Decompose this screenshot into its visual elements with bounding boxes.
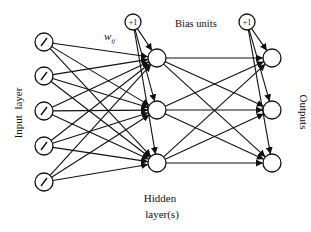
bias-node-label: +1 [243, 18, 252, 27]
input-layer-label: Input layer [12, 87, 24, 138]
input-node [35, 102, 53, 120]
input-node [35, 173, 53, 191]
edge-input-hidden [52, 62, 149, 107]
edge-input-hidden [50, 65, 151, 176]
input-node [35, 137, 53, 155]
edge-input-hidden [52, 115, 149, 159]
edge-input-hidden [53, 110, 148, 111]
bias-node: +1 [125, 14, 141, 30]
weight-label: wij [104, 30, 115, 45]
input-node [35, 33, 53, 51]
hidden-node [148, 101, 166, 119]
output-node [263, 154, 281, 172]
edge-input-hidden [51, 64, 150, 141]
output-node [263, 49, 281, 67]
output-node [263, 101, 281, 119]
edge-input-hidden [53, 43, 148, 56]
hidden-node [148, 49, 166, 67]
hidden-node [148, 154, 166, 172]
edge-input-hidden [53, 147, 148, 161]
neural-network-diagram: +1+1 wij Bias units Input layer Outputs … [0, 0, 311, 232]
hidden-label-line2: layer(s) [145, 208, 179, 221]
hidden-label-line1: Hidden [144, 192, 177, 204]
bias-units-label: Bias units [175, 18, 217, 29]
bias-node-label: +1 [129, 18, 138, 27]
bias-node: +1 [239, 14, 255, 30]
input-node [35, 67, 53, 85]
outputs-label: Outputs [298, 95, 310, 130]
